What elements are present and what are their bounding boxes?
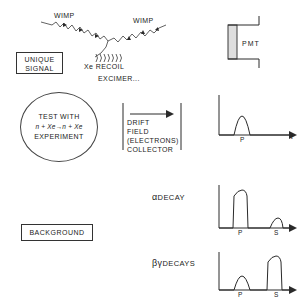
label-excimer: EXCIMER... xyxy=(98,74,140,83)
label-electrons: (ELECTRONS) xyxy=(127,136,179,145)
box-background: BACKGROUND xyxy=(21,224,93,241)
circle-test-experiment: TEST WITH n + Xe→n + Xe EXPERIMENT xyxy=(20,92,98,162)
plot1-x-axis-label: t xyxy=(291,133,293,140)
plot-betagamma-decay-trace xyxy=(219,256,289,290)
plot2-peak-label-s: S xyxy=(274,229,278,236)
plot-betagamma-decay-axes xyxy=(219,252,297,294)
label-drift: DRIFT xyxy=(127,118,150,127)
excimer-photon-arcs xyxy=(96,54,122,62)
unique-signal-line-1: UNIQUE xyxy=(21,55,58,64)
plot-unique-signal-trace xyxy=(219,116,289,135)
plot3-peak-label-p: P xyxy=(238,291,242,298)
label-collector: COLLECTOR xyxy=(127,145,173,154)
circle-line-1: TEST WITH xyxy=(38,112,79,122)
plot2-peak-label-p: P xyxy=(238,229,242,236)
wimp-incoming-track xyxy=(41,22,108,41)
alpha-decay-text: DECAY xyxy=(158,193,185,202)
unique-signal-line-2: SIGNAL xyxy=(21,64,58,73)
wimp-outgoing-track xyxy=(108,25,166,42)
label-alpha-decay: αDECAY xyxy=(152,192,185,202)
plot-alpha-decay-axes xyxy=(219,185,297,232)
box-unique-signal: UNIQUE SIGNAL xyxy=(16,52,63,74)
plot3-peak-label-s: S xyxy=(274,291,278,298)
plot-alpha-decay-trace xyxy=(219,190,289,228)
label-betagamma-decays: βγDECAYS xyxy=(152,258,195,268)
plot1-peak-label-p: P xyxy=(240,136,244,143)
xe-recoil-track xyxy=(95,41,108,57)
betagamma-decay-text: DECAYS xyxy=(162,259,195,268)
label-pmt: PMT xyxy=(242,39,260,48)
circle-equation-lhs: n + Xe xyxy=(35,123,55,130)
circle-equation: n + Xe→n + Xe xyxy=(35,122,82,132)
circle-line-3: EXPERIMENT xyxy=(34,132,84,142)
figure-canvas: WIMP WIMP Xe RECOIL EXCIMER... UNIQUE SI… xyxy=(0,0,308,303)
label-xe-recoil: Xe RECOIL xyxy=(84,62,124,71)
label-field: FIELD xyxy=(127,127,149,136)
label-wimp-outgoing: WIMP xyxy=(133,16,154,25)
background-label: BACKGROUND xyxy=(29,228,84,237)
label-wimp-incoming: WIMP xyxy=(54,11,75,20)
circle-equation-rhs: n + Xe xyxy=(62,123,82,130)
betagamma-symbol: βγ xyxy=(152,258,162,268)
plot-unique-signal-axes xyxy=(219,95,297,139)
